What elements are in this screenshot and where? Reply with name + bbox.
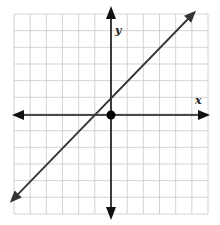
y-axis-down-arrow-icon bbox=[106, 207, 116, 220]
y-axis-up-arrow-icon bbox=[106, 6, 116, 19]
line-series bbox=[10, 11, 196, 203]
graphed-line bbox=[14, 15, 192, 198]
origin-point bbox=[107, 111, 116, 120]
x-axis-label: x bbox=[194, 94, 202, 107]
coordinate-plane: x y bbox=[0, 0, 220, 225]
